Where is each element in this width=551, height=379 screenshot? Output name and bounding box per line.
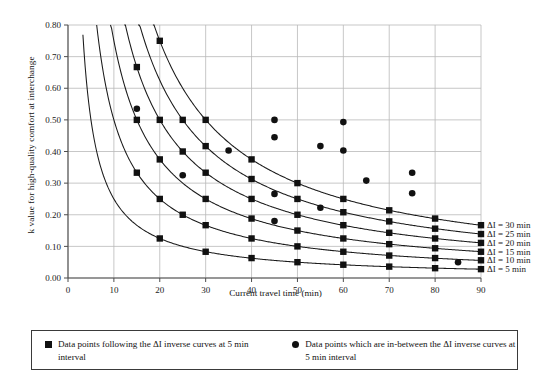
data-point-circle (317, 143, 324, 150)
curve-5 (83, 35, 481, 269)
data-point-square (248, 176, 254, 182)
data-point-square (294, 227, 300, 233)
data-point-square (248, 156, 254, 162)
data-point-circle (271, 218, 278, 225)
data-point-square (340, 235, 346, 241)
data-point-square (432, 215, 438, 221)
data-point-square (134, 169, 140, 175)
y-tick-label: 0.00 (45, 273, 61, 283)
data-point-circle (317, 204, 324, 211)
data-point-square (134, 117, 140, 123)
y-tick-label: 0.80 (45, 20, 61, 30)
data-point-square (202, 222, 208, 228)
data-point-circle (271, 191, 278, 198)
data-point-square (157, 196, 163, 202)
y-tick-label: 0.50 (45, 115, 61, 125)
data-point-square (157, 117, 163, 123)
data-point-square (386, 241, 392, 247)
data-point-square (432, 255, 438, 261)
legend-entry-squares-text: Data points following the ΔI inverse cur… (58, 338, 273, 363)
y-tick-label: 0.60 (45, 83, 61, 93)
data-point-square (386, 218, 392, 224)
legend-circles-line1: Data points which are in-between the ΔI … (305, 339, 480, 349)
data-point-square (478, 222, 484, 228)
data-point-square (432, 235, 438, 241)
data-point-square (157, 38, 163, 44)
data-point-circle (409, 169, 416, 176)
legend-entry-circles: Data points which are in-between the ΔI … (292, 337, 517, 363)
data-point-square (248, 196, 254, 202)
data-point-square (386, 252, 392, 258)
data-point-square (202, 169, 208, 175)
data-point-circle (271, 134, 278, 141)
data-point-circle (340, 147, 347, 154)
data-point-square (432, 265, 438, 271)
curve-20 (124, 25, 481, 243)
y-tick-label: 0.70 (45, 52, 61, 62)
data-point-circle (179, 172, 186, 179)
data-point-square (478, 240, 484, 246)
data-point-square (340, 196, 346, 202)
data-point-square (478, 266, 484, 272)
data-point-circle (455, 259, 462, 266)
data-point-square (180, 212, 186, 218)
data-point-square (294, 180, 300, 186)
data-point-square (202, 249, 208, 255)
data-point-square (202, 143, 208, 149)
data-point-square (294, 259, 300, 265)
data-point-square (180, 148, 186, 154)
chart-svg: 0.000.100.200.300.400.500.600.700.800102… (0, 0, 551, 300)
data-point-square (386, 230, 392, 236)
y-tick-label: 0.10 (45, 242, 61, 252)
y-tick-label: 0.40 (45, 147, 61, 157)
curve-10 (97, 25, 481, 260)
y-tick-label: 0.30 (45, 178, 61, 188)
data-point-square (248, 215, 254, 221)
data-point-circle (409, 190, 416, 197)
data-point-square (248, 235, 254, 241)
data-point-square (134, 64, 140, 70)
data-point-square (294, 243, 300, 249)
data-point-square (478, 249, 484, 255)
square-marker-icon (45, 341, 52, 348)
y-tick-label: 0.20 (45, 210, 61, 220)
data-point-circle (340, 119, 347, 126)
legend-entry-circles-text: Data points which are in-between the ΔI … (305, 338, 517, 363)
data-point-circle (271, 117, 278, 124)
legend-box: Data points following the ΔI inverse cur… (31, 330, 518, 370)
x-axis-label: Current travel time (min) (0, 288, 551, 298)
curve-label: ΔI = 5 min (487, 264, 527, 274)
data-point-square (202, 196, 208, 202)
data-point-square (432, 245, 438, 251)
data-point-square (432, 225, 438, 231)
data-point-square (340, 209, 346, 215)
data-point-square (478, 257, 484, 263)
data-point-circle (225, 147, 232, 154)
data-point-square (248, 255, 254, 261)
chart-plot-area: 0.000.100.200.300.400.500.600.700.800102… (0, 0, 551, 300)
data-point-square (294, 196, 300, 202)
figure-root: 0.000.100.200.300.400.500.600.700.800102… (0, 0, 551, 379)
circle-marker-icon (292, 341, 300, 349)
data-point-square (386, 207, 392, 213)
curve-30 (153, 25, 481, 225)
data-point-square (202, 117, 208, 123)
data-point-square (157, 235, 163, 241)
data-point-square (478, 231, 484, 237)
legend-squares-line1: Data points following the ΔI inverse cur… (58, 339, 216, 349)
data-point-square (180, 117, 186, 123)
data-point-circle (363, 177, 370, 184)
data-point-square (340, 262, 346, 268)
legend-entry-squares: Data points following the ΔI inverse cur… (32, 337, 292, 363)
data-point-square (340, 222, 346, 228)
data-point-square (340, 249, 346, 255)
y-axis-label: k value for high-quality comfort at inte… (26, 20, 36, 270)
data-point-square (157, 156, 163, 162)
data-point-square (294, 212, 300, 218)
data-point-circle (134, 106, 141, 113)
data-point-square (386, 263, 392, 269)
